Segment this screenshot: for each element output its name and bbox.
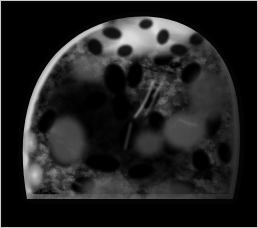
image-viewer: rounded dome-shaped biological specimen … — [0, 0, 258, 228]
cross-section-image — [3, 3, 257, 227]
image-frame-border — [0, 0, 258, 228]
image-plate-background — [3, 3, 257, 227]
specimen-render-stage — [3, 3, 257, 227]
